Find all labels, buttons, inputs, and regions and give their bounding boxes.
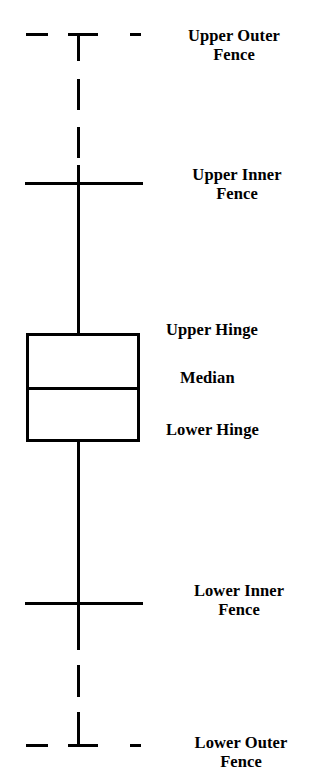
lower-whisker-dashed xyxy=(77,622,80,747)
lower-outer-fence-dash-2 xyxy=(68,744,98,747)
lower-outer-fence-dash-1 xyxy=(26,744,48,747)
lower-whisker-dash-2 xyxy=(77,665,80,697)
upper-whisker-solid xyxy=(77,165,80,335)
label-lower-outer-fence: Lower Outer Fence xyxy=(160,733,322,771)
label-upper-outer-fence: Upper Outer Fence xyxy=(146,26,322,64)
median-line xyxy=(26,387,139,390)
lower-whisker-dash-3 xyxy=(77,712,80,747)
upper-whisker-dashed xyxy=(77,33,80,158)
upper-outer-fence-line xyxy=(26,33,141,36)
upper-inner-fence-line xyxy=(25,182,143,185)
lower-hinge-line xyxy=(26,439,139,442)
upper-whisker-dash-2 xyxy=(77,79,80,110)
label-median: Median xyxy=(180,368,235,387)
label-upper-inner-fence: Upper Inner Fence xyxy=(152,165,322,203)
upper-outer-fence-dash-2 xyxy=(68,33,98,36)
label-upper-hinge: Upper Hinge xyxy=(166,320,258,339)
lower-whisker-dash-1 xyxy=(77,622,80,650)
boxplot-figure: Upper Outer Fence Upper Inner Fence Uppe… xyxy=(0,0,322,777)
lower-outer-fence-line xyxy=(26,744,141,747)
lower-inner-fence-line xyxy=(25,602,143,605)
label-lower-inner-fence: Lower Inner Fence xyxy=(156,581,322,619)
upper-outer-fence-dash-3 xyxy=(130,33,141,36)
boxplot-graphic xyxy=(0,0,322,777)
upper-whisker-dash-3 xyxy=(77,127,80,158)
lower-outer-fence-dash-3 xyxy=(130,744,141,747)
label-lower-hinge: Lower Hinge xyxy=(166,420,259,439)
upper-hinge-line xyxy=(26,333,139,336)
upper-outer-fence-dash-1 xyxy=(26,33,48,36)
upper-whisker-dash-1 xyxy=(77,33,80,61)
lower-whisker-solid xyxy=(77,440,80,622)
